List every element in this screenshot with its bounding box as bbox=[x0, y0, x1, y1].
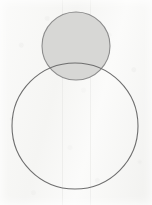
large-unfilled-circle bbox=[12, 63, 138, 189]
geometry-vector-layer bbox=[0, 0, 152, 205]
figure-canvas bbox=[0, 0, 152, 205]
small-shaded-circle bbox=[42, 12, 110, 80]
shape-group bbox=[12, 12, 138, 189]
